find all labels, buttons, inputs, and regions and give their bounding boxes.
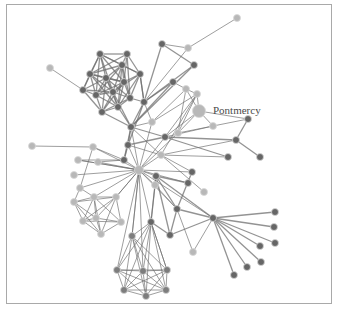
graph-edge xyxy=(213,218,234,275)
graph-node[interactable] xyxy=(127,95,134,102)
graph-node[interactable] xyxy=(71,172,78,179)
graph-node[interactable] xyxy=(135,166,144,175)
graph-node[interactable] xyxy=(137,71,144,78)
graph-node[interactable] xyxy=(71,199,78,206)
graph-node[interactable] xyxy=(244,264,251,271)
graph-node[interactable] xyxy=(77,185,84,192)
graph-node[interactable] xyxy=(183,86,190,93)
graph-node[interactable] xyxy=(174,206,181,213)
graph-node[interactable] xyxy=(141,99,148,106)
graph-node[interactable] xyxy=(185,180,192,187)
graph-edge xyxy=(144,65,194,102)
graph-node[interactable] xyxy=(93,215,100,222)
graph-node[interactable] xyxy=(121,79,128,86)
graph-edge xyxy=(188,18,237,48)
graph-node[interactable] xyxy=(175,130,182,137)
graph-node[interactable] xyxy=(29,143,36,150)
graph-node[interactable] xyxy=(93,92,100,99)
graph-edge xyxy=(74,170,139,175)
graph-node[interactable] xyxy=(80,218,87,225)
graph-edge xyxy=(151,185,155,222)
graph-node[interactable] xyxy=(113,194,120,201)
graph-node[interactable] xyxy=(110,89,117,96)
graph-edge xyxy=(93,147,124,160)
graph-node[interactable] xyxy=(163,287,170,294)
graph-node[interactable] xyxy=(80,87,87,94)
graph-node[interactable] xyxy=(148,219,155,226)
graph-edge xyxy=(170,209,177,235)
graph-edge xyxy=(161,155,192,172)
graph-node[interactable] xyxy=(201,189,208,196)
graph-node[interactable] xyxy=(75,157,82,164)
graph-node[interactable] xyxy=(225,154,232,161)
graph-node[interactable] xyxy=(90,144,97,151)
graph-node[interactable] xyxy=(245,116,252,123)
graph-node[interactable] xyxy=(115,104,122,111)
graph-node[interactable] xyxy=(193,105,206,118)
graph-node[interactable] xyxy=(91,194,98,201)
graph-node[interactable] xyxy=(272,240,279,247)
graph-edge xyxy=(80,147,93,188)
graph-edge xyxy=(140,74,144,102)
node-label-pontmercy: Pontmercy xyxy=(213,104,261,116)
graph-node[interactable] xyxy=(190,249,197,256)
graph-node[interactable] xyxy=(257,154,264,161)
graph-edge xyxy=(236,140,260,157)
graph-edge xyxy=(213,119,248,126)
graph-node[interactable] xyxy=(272,209,279,216)
graph-node[interactable] xyxy=(98,231,105,238)
graph-node[interactable] xyxy=(164,267,171,274)
graph-node[interactable] xyxy=(231,272,238,279)
graph-edge xyxy=(144,44,162,102)
graph-node[interactable] xyxy=(153,173,160,180)
graph-node[interactable] xyxy=(47,65,54,72)
graph-edge xyxy=(213,212,275,218)
graph-node[interactable] xyxy=(103,75,110,82)
graph-edge xyxy=(132,236,166,290)
graph-edge xyxy=(170,218,213,235)
graph-node[interactable] xyxy=(189,169,196,176)
graph-node[interactable] xyxy=(97,51,104,58)
graph-node[interactable] xyxy=(170,79,177,86)
graph-node[interactable] xyxy=(159,41,166,48)
graph-node[interactable] xyxy=(257,243,264,250)
graph-node[interactable] xyxy=(271,224,278,231)
graph-node[interactable] xyxy=(210,123,217,130)
graph-node[interactable] xyxy=(167,232,174,239)
graph-edge xyxy=(193,218,213,252)
graph-node[interactable] xyxy=(152,182,159,189)
graph-node[interactable] xyxy=(99,109,106,116)
graph-node[interactable] xyxy=(119,62,126,69)
graph-node[interactable] xyxy=(140,268,147,275)
graph-node[interactable] xyxy=(185,45,192,52)
graph-node[interactable] xyxy=(234,15,241,22)
graph-node[interactable] xyxy=(121,287,128,294)
graph-edge xyxy=(177,209,193,252)
graph-edge xyxy=(165,137,228,157)
graph-edge xyxy=(213,218,260,246)
graph-node[interactable] xyxy=(149,119,156,126)
graph-node[interactable] xyxy=(143,293,150,300)
graph-node[interactable] xyxy=(194,91,201,98)
graph-node[interactable] xyxy=(162,134,169,141)
graph-node[interactable] xyxy=(191,62,198,69)
graph-edge xyxy=(116,170,139,197)
network-graph[interactable]: Pontmercy xyxy=(0,0,339,314)
graph-node[interactable] xyxy=(95,159,102,166)
graph-edge xyxy=(50,68,83,90)
graph-node[interactable] xyxy=(128,124,135,131)
graph-node[interactable] xyxy=(87,71,94,78)
graph-node[interactable] xyxy=(114,267,121,274)
graph-node[interactable] xyxy=(121,157,128,164)
graph-node[interactable] xyxy=(124,51,131,58)
graph-node[interactable] xyxy=(258,259,265,266)
edges-layer xyxy=(32,18,275,296)
graph-node[interactable] xyxy=(118,219,125,226)
graph-node[interactable] xyxy=(233,137,240,144)
graph-edge xyxy=(132,170,139,236)
graph-node[interactable] xyxy=(158,152,165,159)
graph-node[interactable] xyxy=(125,142,132,149)
graph-node[interactable] xyxy=(129,233,136,240)
graph-node[interactable] xyxy=(210,215,217,222)
graph-edge xyxy=(94,170,139,197)
